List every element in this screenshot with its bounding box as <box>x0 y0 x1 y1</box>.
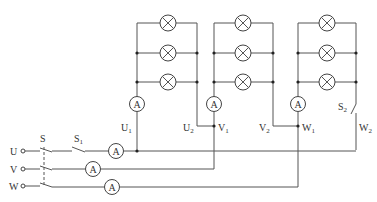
svg-text:A: A <box>294 99 302 110</box>
label-w2: W2 <box>359 122 372 135</box>
lamp-icon <box>319 74 335 90</box>
lamp-icon <box>319 45 335 61</box>
supply-lines: U A V A W A <box>9 133 356 195</box>
ammeter-icon: A <box>291 97 306 112</box>
label-w1: W1 <box>302 122 315 135</box>
svg-text:A: A <box>89 164 97 175</box>
terminal-label-w: W <box>9 181 19 192</box>
svg-text:A: A <box>210 99 218 110</box>
ammeter-icon: A <box>86 162 101 177</box>
lamp-group-v: A V1 V2 <box>207 15 299 169</box>
ammeter-icon: A <box>105 180 120 195</box>
svg-text:A: A <box>133 99 141 110</box>
switch-s2[interactable]: S2 <box>338 101 356 150</box>
lamp-icon <box>160 15 176 31</box>
lamp-icon <box>319 15 335 31</box>
lamp-icon <box>235 45 251 61</box>
lamp-group-u: A U1 U2 <box>121 15 214 151</box>
switch-s1[interactable]: S1 <box>74 133 84 146</box>
circuit-diagram: A U1 U2 A V1 V2 A <box>0 0 377 202</box>
label-s2: S2 <box>338 101 348 114</box>
terminal-label-u: U <box>10 146 18 157</box>
ammeter-icon: A <box>109 144 124 159</box>
label-v2: V2 <box>259 122 270 135</box>
label-s1: S1 <box>74 133 84 146</box>
lamp-icon <box>160 45 176 61</box>
svg-text:A: A <box>108 182 116 193</box>
terminal-icon <box>21 184 25 188</box>
label-s: S <box>40 133 46 144</box>
terminal-icon <box>21 167 25 171</box>
switch-s[interactable]: S <box>40 133 46 186</box>
lamp-icon <box>235 74 251 90</box>
ammeter-icon: A <box>207 97 222 112</box>
terminal-icon <box>21 149 25 153</box>
label-u2: U2 <box>183 122 194 135</box>
terminal-label-v: V <box>10 164 18 175</box>
lamp-group-w: A W1 W2 S2 <box>291 15 373 187</box>
label-v1: V1 <box>218 122 229 135</box>
ammeter-icon: A <box>130 97 145 112</box>
lamp-icon <box>235 15 251 31</box>
label-u1: U1 <box>121 122 132 135</box>
svg-text:A: A <box>112 146 120 157</box>
lamp-icon <box>160 74 176 90</box>
